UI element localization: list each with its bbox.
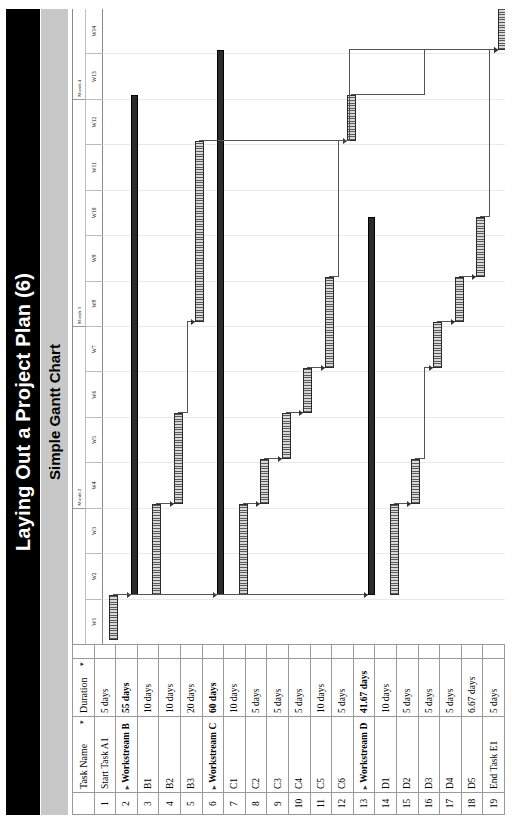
- collapse-caret-icon[interactable]: ▸: [123, 785, 131, 789]
- indicator-cell: [180, 645, 202, 659]
- duration-sort-caret-icon[interactable]: ▾: [78, 662, 86, 666]
- task-name-label: D1: [381, 777, 391, 789]
- row-index: 7: [224, 793, 246, 815]
- column-header-task-name[interactable]: Task Name▾: [73, 717, 95, 793]
- indicator-cell: [137, 645, 159, 659]
- task-name-label: End Task E1: [489, 741, 499, 789]
- task-name-cell[interactable]: D2: [396, 717, 418, 793]
- row-index: 18: [461, 793, 483, 815]
- task-name-label: D5: [467, 777, 477, 789]
- task-name-cell[interactable]: End Task E1: [483, 717, 505, 793]
- task-name-label: C3: [273, 778, 283, 789]
- table-row[interactable]: 11C510 days: [310, 645, 332, 815]
- duration-cell[interactable]: 5 days: [440, 659, 462, 717]
- task-name-cell[interactable]: ▸Workstream D: [353, 717, 375, 793]
- indicator-cell: [202, 645, 224, 659]
- duration-cell[interactable]: 5 days: [418, 659, 440, 717]
- table-row[interactable]: 6▸Workstream C60 days: [202, 645, 224, 815]
- indicator-cell: [288, 645, 310, 659]
- table-row[interactable]: 15D25 days: [396, 645, 418, 815]
- duration-cell[interactable]: 10 days: [375, 659, 397, 717]
- duration-cell[interactable]: 10 days: [137, 659, 159, 717]
- duration-cell[interactable]: 60 days: [202, 659, 224, 717]
- task-name-label: D3: [424, 777, 434, 789]
- duration-cell[interactable]: 41.67 days: [353, 659, 375, 717]
- row-index: 2: [116, 793, 138, 815]
- subtitle-band: Simple Gantt Chart: [41, 9, 68, 815]
- duration-cell[interactable]: 10 days: [310, 659, 332, 717]
- row-index: 14: [375, 793, 397, 815]
- task-name-cell[interactable]: D5: [461, 717, 483, 793]
- task-table: Task Name▾ Duration▾ 1Start Task A15 day…: [72, 644, 505, 815]
- column-header-index: [73, 793, 95, 815]
- rotated-page-canvas: Laying Out a Project Plan (6) Simple Gan…: [0, 0, 512, 823]
- task-name-cell[interactable]: B1: [137, 717, 159, 793]
- document-title-bar: Laying Out a Project Plan (6): [6, 9, 40, 815]
- task-name-cell[interactable]: C3: [267, 717, 289, 793]
- table-row[interactable]: 19End Task E15 days: [483, 645, 505, 815]
- table-row[interactable]: 17D45 days: [440, 645, 462, 815]
- indicator-cell: [245, 645, 267, 659]
- table-row[interactable]: 1Start Task A15 days: [94, 645, 116, 815]
- collapse-caret-icon[interactable]: ▸: [361, 785, 369, 789]
- row-index: 9: [267, 793, 289, 815]
- table-row[interactable]: 18D56.67 days: [461, 645, 483, 815]
- row-index: 10: [288, 793, 310, 815]
- table-row[interactable]: 12C65 days: [332, 645, 354, 815]
- table-row[interactable]: 13▸Workstream D41.67 days: [353, 645, 375, 815]
- indicator-cell: [375, 645, 397, 659]
- task-name-cell[interactable]: C5: [310, 717, 332, 793]
- task-name-cell[interactable]: D3: [418, 717, 440, 793]
- task-name-label: B2: [165, 778, 175, 789]
- table-row[interactable]: 2▸Workstream B55 days: [116, 645, 138, 815]
- task-name-cell[interactable]: B3: [180, 717, 202, 793]
- collapse-caret-icon[interactable]: ▸: [210, 785, 218, 789]
- indicator-cell: [116, 645, 138, 659]
- table-row[interactable]: 4B210 days: [159, 645, 181, 815]
- task-name-cell[interactable]: C6: [332, 717, 354, 793]
- task-name-cell[interactable]: C4: [288, 717, 310, 793]
- duration-cell[interactable]: 5 days: [396, 659, 418, 717]
- task-name-cell[interactable]: ▸Workstream C: [202, 717, 224, 793]
- row-index: 5: [180, 793, 202, 815]
- table-row[interactable]: 3B110 days: [137, 645, 159, 815]
- gantt-sheet: Laying Out a Project Plan (6) Simple Gan…: [0, 0, 512, 823]
- task-name-label: C5: [316, 778, 326, 789]
- task-name-label: B1: [143, 778, 153, 789]
- duration-cell[interactable]: 5 days: [245, 659, 267, 717]
- table-row[interactable]: 16D35 days: [418, 645, 440, 815]
- duration-cell[interactable]: 6.67 days: [461, 659, 483, 717]
- task-name-label: Start Task A1: [100, 738, 110, 789]
- task-name-sort-caret-icon[interactable]: ▾: [78, 720, 86, 724]
- duration-cell[interactable]: 5 days: [94, 659, 116, 717]
- table-row[interactable]: 10C45 days: [288, 645, 310, 815]
- table-row[interactable]: 14D110 days: [375, 645, 397, 815]
- duration-cell[interactable]: 10 days: [224, 659, 246, 717]
- table-row[interactable]: 5B320 days: [180, 645, 202, 815]
- task-name-label: Workstream C: [208, 723, 218, 783]
- duration-cell[interactable]: 10 days: [159, 659, 181, 717]
- task-name-cell[interactable]: D1: [375, 717, 397, 793]
- table-row[interactable]: 9C35 days: [267, 645, 289, 815]
- task-name-label: D4: [445, 777, 455, 789]
- task-name-cell[interactable]: D4: [440, 717, 462, 793]
- task-name-cell[interactable]: C2: [245, 717, 267, 793]
- task-name-cell[interactable]: B2: [159, 717, 181, 793]
- indicator-cell: [159, 645, 181, 659]
- column-header-duration-label: Duration: [78, 677, 89, 713]
- chart-subtitle: Simple Gantt Chart: [46, 344, 63, 480]
- table-row[interactable]: 7C110 days: [224, 645, 246, 815]
- duration-cell[interactable]: 5 days: [288, 659, 310, 717]
- task-name-cell[interactable]: C1: [224, 717, 246, 793]
- duration-cell[interactable]: 5 days: [332, 659, 354, 717]
- duration-cell[interactable]: 5 days: [267, 659, 289, 717]
- task-name-label: C2: [251, 778, 261, 789]
- duration-cell[interactable]: 55 days: [116, 659, 138, 717]
- duration-cell[interactable]: 20 days: [180, 659, 202, 717]
- task-table-header-row: Task Name▾ Duration▾: [73, 645, 95, 815]
- table-row[interactable]: 8C25 days: [245, 645, 267, 815]
- task-name-cell[interactable]: ▸Workstream B: [116, 717, 138, 793]
- task-name-cell[interactable]: Start Task A1: [94, 717, 116, 793]
- duration-cell[interactable]: 5 days: [483, 659, 505, 717]
- column-header-duration[interactable]: Duration▾: [73, 659, 95, 717]
